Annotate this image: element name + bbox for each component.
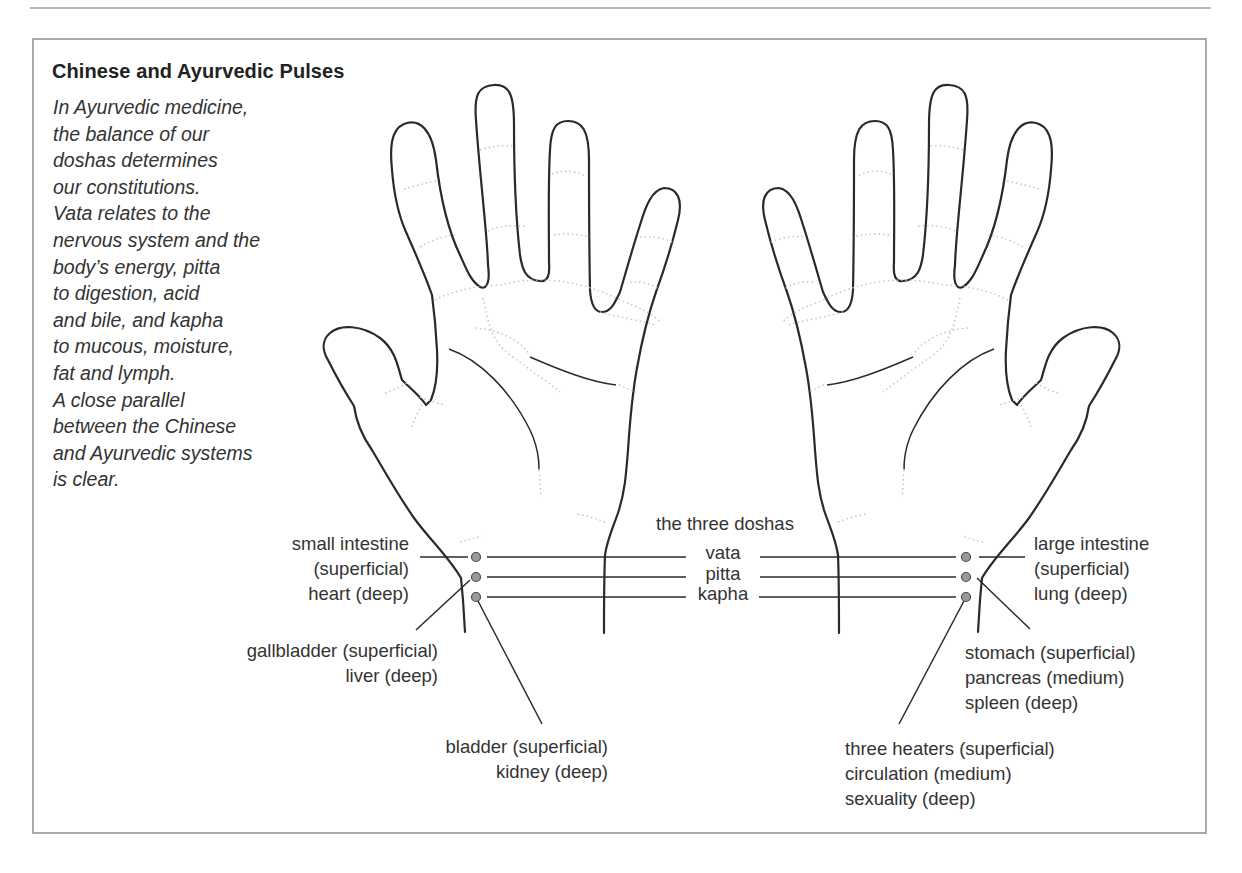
left-pulse-2-label: gallbladder (superficial) liver (deep) bbox=[247, 638, 438, 688]
left-pulse-3-label: bladder (superficial) kidney (deep) bbox=[446, 734, 608, 784]
dosha-pitta: pitta bbox=[686, 564, 760, 584]
pulse-dot-right-2 bbox=[962, 573, 971, 582]
dosha-vata: vata bbox=[686, 543, 760, 563]
right-pulse-2-label: stomach (superficial) pancreas (medium) … bbox=[965, 640, 1136, 715]
pulse-dot-left-3 bbox=[472, 593, 481, 602]
dosha-kapha: kapha bbox=[686, 584, 760, 604]
left-pulse-1-label: small intestine (superficial) heart (dee… bbox=[292, 531, 409, 606]
pulse-dot-left-1 bbox=[472, 553, 481, 562]
hands-illustration bbox=[0, 0, 1242, 873]
pulse-dot-left-2 bbox=[472, 573, 481, 582]
right-pulse-1-label: large intestine (superficial) lung (deep… bbox=[1034, 531, 1149, 606]
right-pulse-3-label: three heaters (superficial) circulation … bbox=[845, 736, 1055, 811]
pulse-dot-right-1 bbox=[962, 553, 971, 562]
pulse-dot-right-3 bbox=[962, 593, 971, 602]
doshas-heading: the three doshas bbox=[630, 511, 820, 536]
